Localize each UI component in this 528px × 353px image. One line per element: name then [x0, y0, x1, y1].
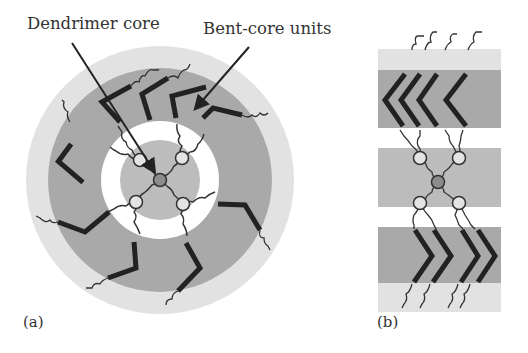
dendrimer-core-label: Dendrimer core	[27, 14, 160, 33]
layer-white	[378, 207, 501, 227]
bent-core-units-label: Bent-core units	[203, 19, 331, 38]
layer-light	[378, 283, 501, 312]
dendrimer-core-node	[154, 174, 167, 187]
panel-b-layered-phase	[378, 32, 501, 312]
layer-light	[378, 49, 501, 70]
dendrimer-diagram	[0, 0, 528, 353]
panel-a-columnar-phase	[26, 43, 294, 314]
panel-b-label: (b)	[377, 313, 398, 331]
layer-white	[378, 128, 501, 148]
panel-b-core-node	[432, 176, 445, 189]
panel-a-label: (a)	[23, 313, 44, 331]
